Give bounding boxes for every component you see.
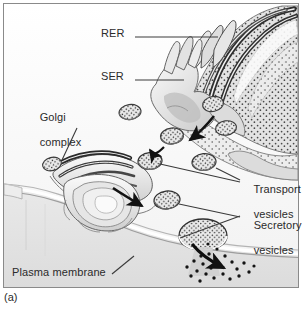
- label-plasma-membrane: Plasma membrane: [12, 266, 106, 279]
- figure-caption: (a): [4, 291, 17, 303]
- label-rer: RER: [101, 27, 125, 40]
- label-transport-line1: Transport: [253, 183, 301, 195]
- label-secretory-line1: Secretory: [254, 219, 302, 231]
- label-golgi-line1: Golgi: [40, 111, 66, 123]
- label-ser: SER: [101, 70, 124, 83]
- label-secretory-vesicles: Secretory vesicles: [241, 206, 302, 269]
- label-golgi-line2: complex: [40, 136, 82, 148]
- label-golgi-complex: Golgi complex: [27, 98, 81, 161]
- figure-panel: RER SER Golgi complex Transport vesicles…: [0, 0, 302, 310]
- label-secretory-line2: vesicles: [254, 244, 294, 256]
